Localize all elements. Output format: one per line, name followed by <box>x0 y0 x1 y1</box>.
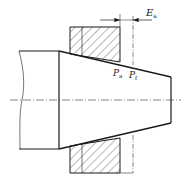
break-line <box>19 51 24 149</box>
hub-lower-section <box>70 138 120 173</box>
label-ea: Ea <box>145 7 157 19</box>
label-pa: Pa <box>112 68 123 79</box>
label-pf: Pf <box>128 70 138 81</box>
final-position-line <box>120 14 133 173</box>
hub-upper-section <box>70 27 120 62</box>
taper-fit-drawing: Ea Pa Pf <box>0 0 191 187</box>
